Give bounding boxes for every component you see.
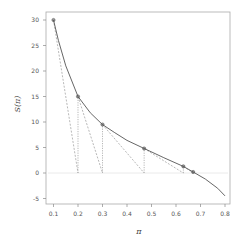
y-tick-label: 25 <box>31 42 39 49</box>
iterate-marker <box>101 123 104 126</box>
y-tick-label: -5 <box>33 195 39 202</box>
x-tick-label: 0.8 <box>220 210 230 217</box>
x-tick-label: 0.6 <box>171 210 181 217</box>
curve <box>54 20 226 196</box>
x-tick-label: 0.3 <box>98 210 108 217</box>
x-axis: 0.10.20.30.40.50.60.70.8 <box>49 204 230 217</box>
iterate-marker <box>76 95 79 98</box>
y-tick-label: 5 <box>35 144 39 151</box>
iterate-marker <box>52 18 55 21</box>
y-axis-label: S(π) <box>13 96 22 113</box>
iterate-marker <box>143 147 146 150</box>
tangent-line <box>144 149 183 173</box>
iterate-markers <box>52 18 195 173</box>
tangent-line <box>78 97 103 174</box>
x-tick-label: 0.5 <box>147 210 157 217</box>
y-tick-label: 30 <box>31 16 39 23</box>
x-tick-label: 0.7 <box>196 210 206 217</box>
y-tick-label: 0 <box>35 169 39 176</box>
chart: 0.10.20.30.40.50.60.70.8 -5051015202530 … <box>0 0 240 248</box>
y-tick-label: 20 <box>31 67 39 74</box>
y-tick-label: 15 <box>31 93 39 100</box>
x-axis-label: π <box>135 227 142 236</box>
y-tick-label: 10 <box>31 118 39 125</box>
iterate-marker <box>192 170 195 173</box>
y-axis: -5051015202530 <box>31 16 46 202</box>
iterate-marker <box>182 165 185 168</box>
x-tick-label: 0.4 <box>122 210 132 217</box>
x-tick-label: 0.2 <box>73 210 83 217</box>
newton-steps <box>54 20 194 173</box>
plot-frame <box>46 12 230 204</box>
tangent-line <box>54 20 79 173</box>
x-tick-label: 0.1 <box>49 210 59 217</box>
tangent-line <box>103 125 145 173</box>
